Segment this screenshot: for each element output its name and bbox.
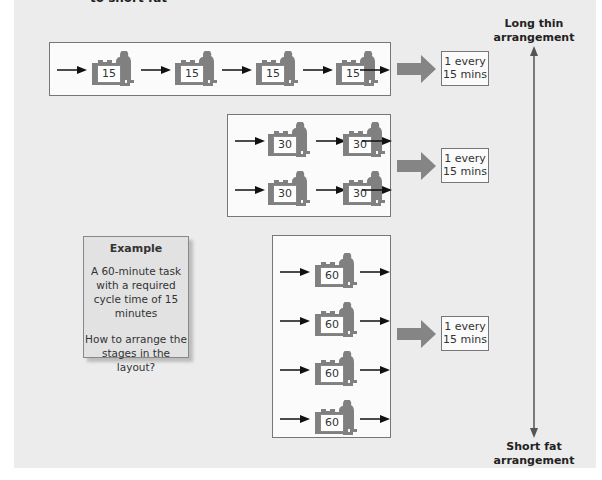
flow-arrow-icon <box>235 185 265 195</box>
flow-arrow-icon <box>280 316 310 326</box>
flow-arrow-icon <box>360 316 390 326</box>
flow-arrow-icon <box>303 65 333 75</box>
workstation-icon: 30 <box>266 122 312 158</box>
example-title: Example <box>84 242 188 255</box>
output-rate-long-thin: 1 every15 mins <box>441 51 489 86</box>
output-arrow-icon <box>397 55 437 87</box>
flow-arrow-icon <box>280 365 310 375</box>
stage-time: 60 <box>320 414 344 432</box>
flow-arrow-icon <box>360 414 390 424</box>
flow-arrow-icon <box>362 136 392 146</box>
flow-arrow-icon <box>222 65 252 75</box>
output-rate-intermediate: 1 every15 mins <box>441 148 489 183</box>
workstation-icon: 60 <box>313 351 359 387</box>
stage-time: 30 <box>273 136 297 154</box>
example-question: How to arrange the stages in the layout? <box>84 332 188 374</box>
output-arrow-icon <box>397 152 437 184</box>
stage-time: 15 <box>261 65 285 83</box>
flow-arrow-icon <box>360 365 390 375</box>
stage-time: 60 <box>320 267 344 285</box>
flow-arrow-icon <box>280 267 310 277</box>
axis-label-long-thin: Long thinarrangement <box>479 17 589 45</box>
stage-time: 30 <box>273 185 297 203</box>
workstation-icon: 15 <box>90 51 136 87</box>
flow-arrow-icon <box>360 65 390 75</box>
stage-time: 15 <box>180 65 204 83</box>
flow-arrow-icon <box>360 267 390 277</box>
layout-panel-short-fat: 60 60 60 60 <box>272 235 391 438</box>
stage-time: 15 <box>97 65 121 83</box>
layout-panel-long-thin: 15 15 15 15 <box>49 42 391 96</box>
example-body: A 60-minute task with a required cycle t… <box>84 264 188 320</box>
flow-arrow-icon <box>280 414 310 424</box>
axis-label-short-fat: Short fatarrangement <box>479 440 589 468</box>
workstation-icon: 15 <box>173 51 219 87</box>
figure-title-cut: to short fat <box>90 0 167 5</box>
layout-panel-intermediate: 30 30 30 30 <box>227 114 391 217</box>
flow-arrow-icon <box>141 65 171 75</box>
flow-arrow-icon <box>235 136 265 146</box>
output-arrow-icon <box>397 320 437 352</box>
double-arrow-icon <box>528 46 540 442</box>
output-rate-short-fat: 1 every15 mins <box>441 316 489 351</box>
stage-time: 60 <box>320 365 344 383</box>
workstation-icon: 30 <box>266 171 312 207</box>
example-callout: Example A 60-minute task with a required… <box>83 236 189 358</box>
flow-arrow-icon <box>57 65 87 75</box>
workstation-icon: 60 <box>313 253 359 289</box>
flow-arrow-icon <box>362 185 392 195</box>
workstation-icon: 15 <box>254 51 300 87</box>
stage-time: 60 <box>320 316 344 334</box>
workstation-icon: 60 <box>313 302 359 338</box>
workstation-icon: 60 <box>313 400 359 436</box>
